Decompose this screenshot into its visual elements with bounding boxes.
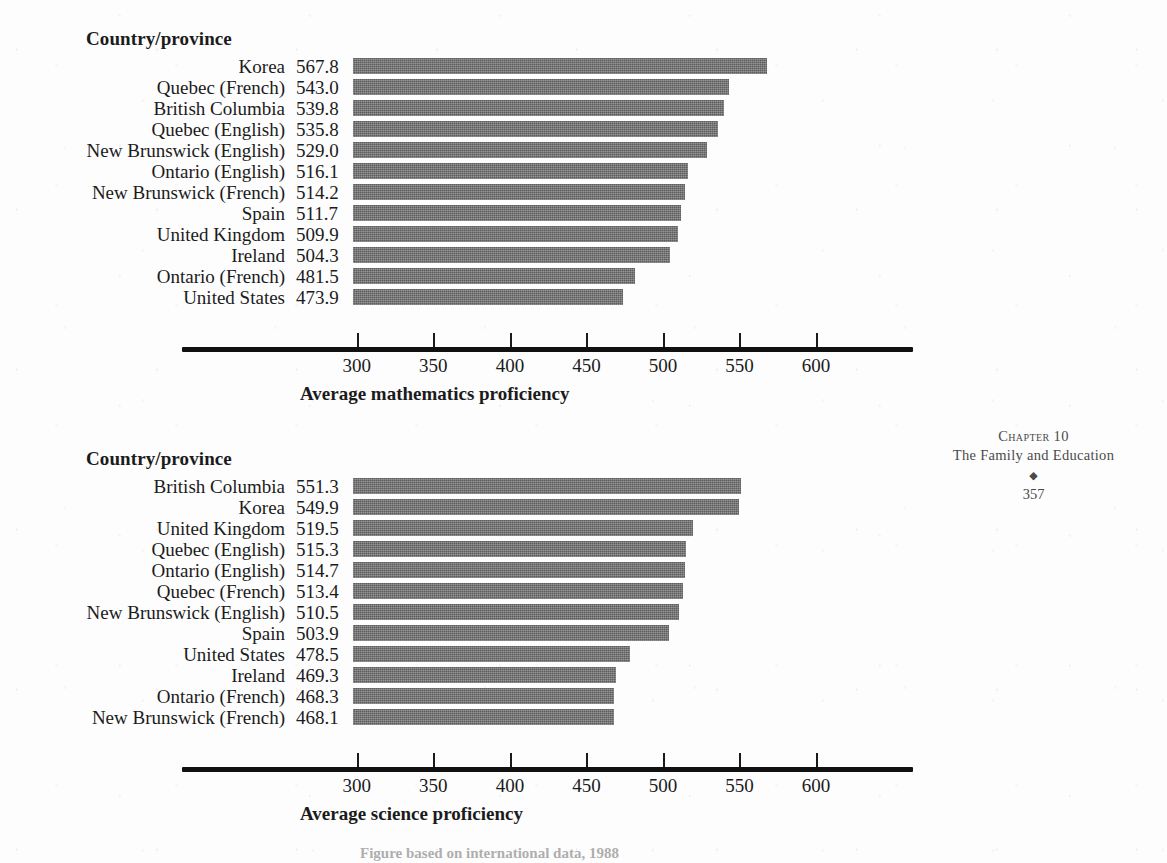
bar-category-label: Spain [242,203,285,224]
bar [353,268,635,284]
bar [353,142,707,158]
bar [353,58,767,74]
bar-value-label: 543.0 [296,77,350,98]
axis-tick [663,333,665,347]
table-row: Ontario (English)516.1 [0,161,1167,182]
bar-category-label: Korea [239,497,285,518]
table-row: New Brunswick (French)514.2 [0,182,1167,203]
bar [353,667,616,683]
bar-category-label: Ireland [231,665,285,686]
bar-category-label: Quebec (English) [152,539,285,560]
table-row: New Brunswick (French)468.1 [0,707,1167,728]
bar-category-label: United States [183,644,285,665]
bar-value-label: 509.9 [296,224,350,245]
bar-value-label: 473.9 [296,287,350,308]
axis-tick [586,753,588,767]
axis-caption-mathematics: Average mathematics proficiency [300,383,569,405]
table-row: Quebec (French)513.4 [0,581,1167,602]
running-head: Chapter 10 The Family and Education ◆ 35… [900,427,1167,504]
bar [353,499,739,515]
axis-tick-label: 400 [480,775,540,797]
axis-tick [739,333,741,347]
axis-tick-label: 450 [556,775,616,797]
table-row: British Columbia539.8 [0,98,1167,119]
bar-category-label: Quebec (English) [152,119,285,140]
table-row: Ireland469.3 [0,665,1167,686]
axis-tick [433,753,435,767]
bar-value-label: 478.5 [296,644,350,665]
running-head-title: The Family and Education [900,446,1167,465]
table-row: United Kingdom519.5 [0,518,1167,539]
bar-category-label: Ontario (English) [151,560,285,581]
bar-category-label: New Brunswick (English) [87,140,285,161]
bar-category-label: British Columbia [154,98,285,119]
axis-tick [663,753,665,767]
bar-category-label: United Kingdom [157,518,285,539]
bar [353,247,670,263]
column-header-country-province: Country/province [86,28,232,50]
table-row: Quebec (French)543.0 [0,77,1167,98]
axis-tick [357,753,359,767]
table-row: Ireland504.3 [0,245,1167,266]
bar [353,709,614,725]
axis-tick [586,333,588,347]
table-row: New Brunswick (English)510.5 [0,602,1167,623]
table-row: Ontario (English)514.7 [0,560,1167,581]
bar-category-label: United States [183,287,285,308]
table-row: United Kingdom509.9 [0,224,1167,245]
bar-value-label: 513.4 [296,581,350,602]
table-row: Ontario (French)481.5 [0,266,1167,287]
table-row: Spain503.9 [0,623,1167,644]
bar [353,604,679,620]
bar-value-label: 514.2 [296,182,350,203]
axis-tick-label: 600 [786,775,846,797]
bar-value-label: 468.3 [296,686,350,707]
axis-tick [433,333,435,347]
bar [353,583,683,599]
table-row: Quebec (English)535.8 [0,119,1167,140]
bar [353,625,669,641]
axis-tick-label: 600 [786,355,846,377]
bar-value-label: 511.7 [296,203,350,224]
bar-value-label: 504.3 [296,245,350,266]
bar-value-label: 514.7 [296,560,350,581]
axis-line [182,347,913,352]
bar [353,541,686,557]
bar-value-label: 535.8 [296,119,350,140]
bar-category-label: Korea [239,56,285,77]
axis-tick-label: 400 [480,355,540,377]
bar [353,184,685,200]
bar-category-label: Ontario (French) [157,686,285,707]
bar [353,226,678,242]
axis-tick-label: 300 [327,775,387,797]
bar-category-label: New Brunswick (French) [92,707,285,728]
bar-category-label: New Brunswick (French) [92,182,285,203]
bar-value-label: 516.1 [296,161,350,182]
table-row: United States478.5 [0,644,1167,665]
page-number: 357 [900,485,1167,504]
bar-value-label: 515.3 [296,539,350,560]
axis-tick-label: 500 [633,775,693,797]
bar-value-label: 468.1 [296,707,350,728]
bar-category-label: Spain [242,623,285,644]
table-row: Ontario (French)468.3 [0,686,1167,707]
figure-caption-partial: Figure based on international data, 1988 [360,845,980,863]
axis-tick-label: 550 [709,355,769,377]
bar-value-label: 510.5 [296,602,350,623]
axis-tick [357,333,359,347]
axis-tick [816,333,818,347]
bar-value-label: 469.3 [296,665,350,686]
axis-tick-label: 450 [556,355,616,377]
bar-value-label: 549.9 [296,497,350,518]
axis-tick [510,753,512,767]
bar-value-label: 551.3 [296,476,350,497]
table-row: Spain511.7 [0,203,1167,224]
bar [353,688,614,704]
bar-value-label: 503.9 [296,623,350,644]
bar [353,646,630,662]
bar-category-label: Ireland [231,245,285,266]
bar-value-label: 529.0 [296,140,350,161]
bar-value-label: 539.8 [296,98,350,119]
axis-tick [510,333,512,347]
bar-value-label: 481.5 [296,266,350,287]
